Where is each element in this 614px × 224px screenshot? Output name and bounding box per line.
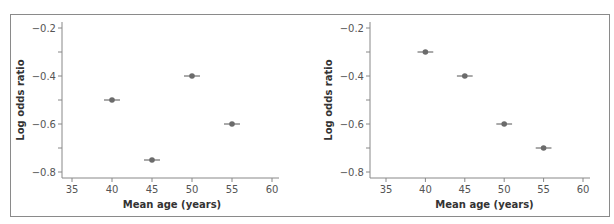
x-axis-title: Mean age (years) <box>435 199 533 210</box>
x-tick-label: 60 <box>266 184 279 195</box>
chart-area: −0.2−0.4−0.6−0.8354045505560Mean age (ye… <box>0 0 614 224</box>
data-point <box>109 97 115 103</box>
y-tick-label: −0.8 <box>32 167 56 178</box>
y-tick-label: −0.6 <box>340 119 364 130</box>
data-point <box>501 121 507 127</box>
y-tick-label: −0.2 <box>32 23 56 34</box>
x-tick-label: 35 <box>380 184 393 195</box>
x-tick-label: 40 <box>419 184 432 195</box>
x-tick-label: 45 <box>146 184 159 195</box>
x-tick-label: 55 <box>537 184 550 195</box>
x-axis-title: Mean age (years) <box>123 199 221 210</box>
data-point <box>189 73 195 79</box>
x-tick-label: 55 <box>226 184 239 195</box>
x-tick-label: 40 <box>106 184 119 195</box>
y-axis-title: Log odds ratio <box>15 59 26 140</box>
data-point <box>541 145 547 151</box>
data-point <box>462 73 468 79</box>
data-point <box>423 49 429 55</box>
x-tick-label: 60 <box>577 184 590 195</box>
y-tick-label: −0.6 <box>32 119 56 130</box>
x-tick-label: 50 <box>186 184 199 195</box>
x-tick-label: 50 <box>498 184 511 195</box>
y-tick-label: −0.8 <box>340 167 364 178</box>
x-tick-label: 35 <box>66 184 79 195</box>
y-tick-label: −0.4 <box>340 71 364 82</box>
data-point <box>229 121 235 127</box>
y-axis-title: Log odds ratio <box>323 59 334 140</box>
y-tick-label: −0.2 <box>340 23 364 34</box>
x-tick-label: 45 <box>458 184 471 195</box>
data-point <box>149 157 155 163</box>
y-tick-label: −0.4 <box>32 71 56 82</box>
